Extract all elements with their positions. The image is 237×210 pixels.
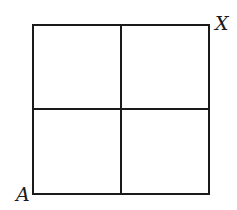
- grid-diagram: X A: [0, 0, 237, 210]
- label-x: X: [213, 12, 230, 34]
- label-a: A: [14, 183, 30, 205]
